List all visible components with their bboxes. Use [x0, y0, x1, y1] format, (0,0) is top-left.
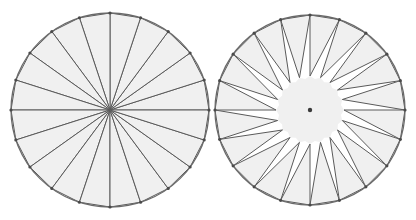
- rim-vertex-4: [167, 30, 170, 33]
- rim-vertex-3: [385, 53, 388, 56]
- rim-vertex-19: [385, 164, 388, 167]
- rim-vertex-13: [28, 165, 31, 168]
- right-circle-panel: [213, 13, 406, 206]
- rim-vertex-19: [188, 165, 191, 168]
- rim-vertex-4: [364, 32, 367, 35]
- rim-vertex-10: [14, 78, 17, 81]
- rim-vertex-18: [167, 187, 170, 190]
- rim-vertex-7: [78, 16, 81, 19]
- rim-vertex-16: [308, 203, 311, 206]
- circle-dissection-figure: [0, 0, 416, 220]
- rim-vertex-11: [213, 108, 216, 111]
- rim-vertex-6: [308, 13, 311, 16]
- rim-vertex-7: [279, 18, 282, 21]
- rim-vertex-12: [218, 138, 221, 141]
- rim-vertex-3: [188, 51, 191, 54]
- rim-vertex-20: [203, 138, 206, 141]
- rim-vertex-15: [78, 201, 81, 204]
- rim-vertex-5: [139, 16, 142, 19]
- rim-vertex-8: [50, 30, 53, 33]
- rim-vertex-6: [108, 11, 111, 14]
- center-point: [308, 108, 312, 112]
- rim-vertex-2: [203, 78, 206, 81]
- rim-vertex-9: [28, 51, 31, 54]
- rim-vertex-14: [253, 185, 256, 188]
- rim-vertex-20: [399, 138, 402, 141]
- rim-vertex-11: [9, 108, 12, 111]
- rim-vertex-17: [338, 199, 341, 202]
- rim-vertex-1: [403, 108, 406, 111]
- rim-vertex-8: [253, 32, 256, 35]
- rim-vertex-1: [207, 108, 210, 111]
- rim-vertex-2: [399, 79, 402, 82]
- rim-vertex-17: [139, 201, 142, 204]
- rim-vertex-5: [338, 18, 341, 21]
- rim-vertex-15: [279, 199, 282, 202]
- rim-vertex-10: [218, 79, 221, 82]
- rim-vertex-14: [50, 187, 53, 190]
- rim-vertex-18: [364, 185, 367, 188]
- rim-vertex-13: [232, 164, 235, 167]
- rim-vertex-12: [14, 138, 17, 141]
- left-circle-panel: [9, 11, 210, 208]
- rim-vertex-9: [232, 53, 235, 56]
- rim-vertex-16: [108, 205, 111, 208]
